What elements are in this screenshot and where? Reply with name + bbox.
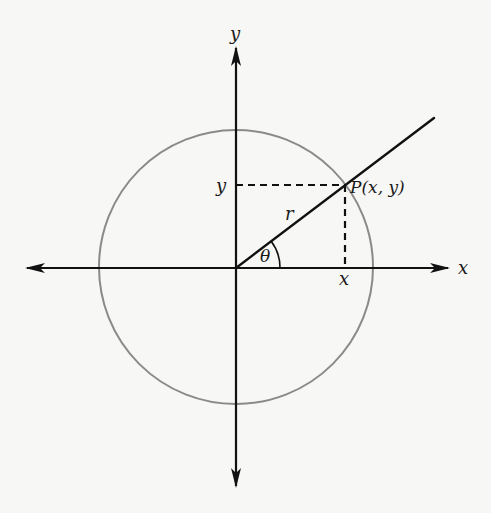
x-projection-label: x — [339, 268, 349, 289]
point-p-label: P(x, y) — [349, 177, 405, 197]
x-axis-label: x — [458, 257, 468, 278]
diagram-svg: y x y x r θ P(x, y) — [0, 0, 491, 513]
y-axis-label: y — [229, 23, 241, 44]
diagram-canvas: y x y x r θ P(x, y) — [0, 0, 491, 513]
y-projection-label: y — [215, 175, 227, 196]
radius-label: r — [285, 203, 295, 224]
angle-arc — [271, 241, 280, 268]
angle-label: θ — [260, 246, 270, 266]
